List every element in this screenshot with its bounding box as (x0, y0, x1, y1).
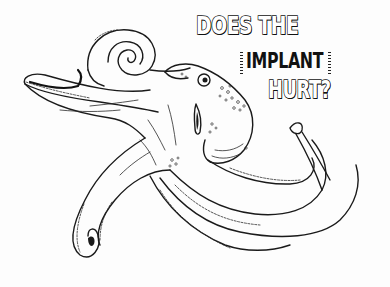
octopus-head (165, 64, 253, 163)
illustration-canvas: DOES THE IMPLANT HURT? (0, 0, 390, 287)
lower-right-arms (150, 123, 358, 250)
caption-line-2: IMPLANT (246, 50, 323, 72)
octopus-body (140, 105, 179, 167)
left-dotted-accent (240, 52, 243, 74)
lower-left-arm (73, 138, 170, 257)
left-arm (24, 70, 158, 138)
octopus-illustration (0, 0, 390, 287)
caption-line-1: DOES THE (196, 14, 298, 38)
right-dotted-accent (328, 52, 331, 74)
caption-line-3: HURT? (268, 78, 331, 102)
